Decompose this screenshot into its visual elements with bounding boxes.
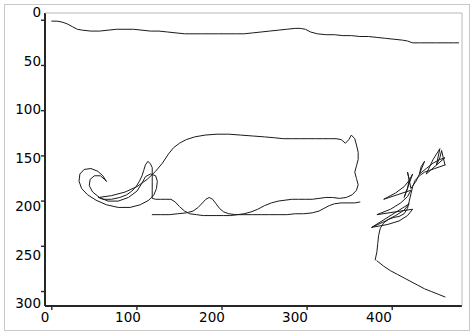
x-tick-label-300: 300	[282, 311, 308, 325]
x-tick-label-100: 100	[115, 311, 141, 325]
x-tick-label-200: 200	[199, 311, 225, 325]
y-tick-label-150: 150	[15, 152, 41, 166]
contour-plot-svg	[0, 0, 475, 336]
y-tick-label-100: 100	[15, 103, 41, 117]
y-tick-label-250: 250	[15, 249, 41, 263]
x-tick-label-0: 0	[41, 311, 50, 325]
plot-area: 0 50 100 150 200 250 300 0 100 200 300 4…	[0, 0, 475, 336]
figure-canvas: 0 50 100 150 200 250 300 0 100 200 300 4…	[0, 0, 475, 336]
y-tick-label-0: 0	[32, 6, 41, 20]
x-tick-label-400: 400	[366, 311, 392, 325]
y-tick-label-300: 300	[15, 297, 41, 311]
y-tick-label-50: 50	[24, 55, 41, 69]
axes-background	[45, 13, 462, 306]
y-tick-label-200: 200	[15, 200, 41, 214]
